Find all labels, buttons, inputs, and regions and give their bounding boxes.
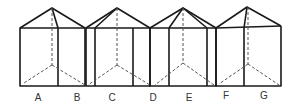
label-b: B <box>70 92 84 103</box>
label-g: G <box>257 90 271 101</box>
solid-1 <box>20 8 85 86</box>
prism-diagram <box>0 0 296 105</box>
solid-3 <box>150 8 216 86</box>
solid-4 <box>216 7 281 86</box>
solid-2 <box>86 8 150 86</box>
label-c: C <box>105 92 119 103</box>
label-f: F <box>219 90 233 101</box>
label-d: D <box>146 92 160 103</box>
label-a: A <box>31 92 45 103</box>
label-e: E <box>182 92 196 103</box>
